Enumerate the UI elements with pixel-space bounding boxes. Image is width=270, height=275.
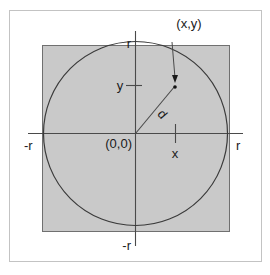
radius-left-label: -r	[24, 138, 33, 153]
point-label: (x,y)	[176, 16, 201, 31]
radius-top-label: r	[127, 36, 132, 51]
origin-label: (0,0)	[105, 136, 132, 151]
figure-canvas: (x,y) r -r -r r (0,0) y x d	[0, 0, 270, 275]
radius-right-label: r	[236, 138, 241, 153]
y-coordinate-label: y	[117, 78, 124, 93]
plotted-point-dot	[173, 85, 177, 89]
radius-bottom-label: -r	[122, 238, 131, 253]
x-coordinate-label: x	[172, 146, 179, 161]
circle-diagram: (x,y) r -r -r r (0,0) y x d	[0, 0, 270, 275]
